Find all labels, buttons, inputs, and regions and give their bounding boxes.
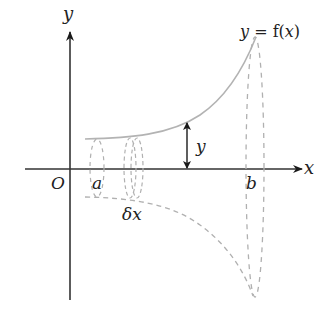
disc-at-b: [246, 37, 264, 297]
slab-left-edge: [124, 138, 136, 198]
x-axis-label: x: [304, 157, 314, 178]
delta-x-label: δx: [122, 204, 142, 224]
origin-label: O: [51, 173, 65, 193]
slab-right-edge: [131, 138, 143, 198]
solid-of-revolution-diagram: y x O a b δx y y = f(x): [0, 0, 330, 313]
radius-label: y: [195, 136, 206, 156]
mirror-curve-dashed: [85, 197, 253, 296]
b-label: b: [246, 173, 257, 193]
curve-equation-label: y = f(x): [239, 22, 300, 41]
eq-f: f(: [273, 22, 285, 41]
a-label: a: [92, 173, 102, 193]
y-axis-label: y: [62, 3, 74, 24]
eq-x: x: [285, 22, 294, 41]
eq-close: ): [294, 22, 300, 41]
eq-equals: =: [249, 22, 273, 41]
curve-f: [85, 37, 256, 139]
